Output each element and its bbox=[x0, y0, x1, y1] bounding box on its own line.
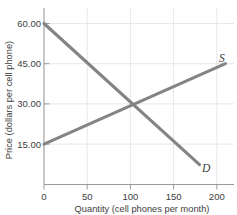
chart-canvas: 60.00 45.00 30.00 15.00 0 50 100 150 200… bbox=[0, 0, 237, 215]
y-tick-label-30: 30.00 bbox=[17, 98, 41, 109]
y-tick-label-45: 45.00 bbox=[17, 58, 41, 69]
y-tick-label-60: 60.00 bbox=[17, 18, 41, 29]
demand-curve-label: D bbox=[201, 162, 211, 174]
x-tick-label-50: 50 bbox=[82, 191, 93, 202]
y-axis-title: Price (dollars per cell phone) bbox=[4, 41, 14, 159]
x-axis-title: Quantity (cell phones per month) bbox=[75, 204, 210, 214]
x-tick-label-100: 100 bbox=[122, 191, 138, 202]
demand-curve bbox=[44, 24, 200, 165]
x-tick-label-200: 200 bbox=[209, 191, 225, 202]
supply-demand-chart: 60.00 45.00 30.00 15.00 0 50 100 150 200… bbox=[0, 0, 237, 215]
x-tick-label-150: 150 bbox=[166, 191, 182, 202]
x-tick-label-0: 0 bbox=[41, 191, 46, 202]
y-tick-label-15: 15.00 bbox=[17, 139, 41, 150]
supply-curve-label: S bbox=[219, 52, 225, 64]
